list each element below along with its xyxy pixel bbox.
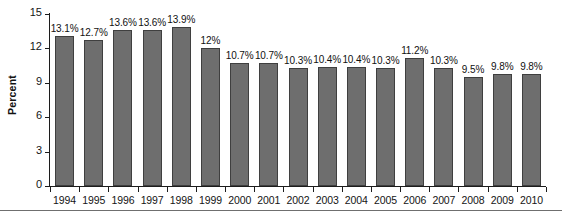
- y-axis-tick-mark: [45, 152, 50, 153]
- bar: [464, 77, 483, 186]
- x-axis-label: 1994: [49, 194, 81, 206]
- bar: [376, 68, 395, 186]
- x-axis-label: 2003: [311, 194, 343, 206]
- bar: [318, 67, 337, 186]
- x-axis-tick-mark: [546, 187, 547, 192]
- bar: [84, 40, 103, 186]
- x-axis-tick-mark: [400, 187, 401, 192]
- bar: [143, 30, 162, 186]
- x-axis-tick-mark: [138, 187, 139, 192]
- bar: [172, 27, 191, 186]
- y-axis-tick-mark: [45, 83, 50, 84]
- x-axis-label: 2010: [515, 194, 547, 206]
- x-axis-tick-mark: [371, 187, 372, 192]
- footer-divider: [0, 210, 562, 211]
- x-axis-label: 2002: [282, 194, 314, 206]
- y-axis-title: Percent: [2, 0, 22, 190]
- x-axis-label: 2009: [486, 194, 518, 206]
- x-axis-label: 1997: [136, 194, 168, 206]
- x-axis-tick-mark: [196, 187, 197, 192]
- bar: [55, 36, 74, 186]
- y-axis-tick: 15: [0, 14, 50, 15]
- x-axis-tick-mark: [488, 187, 489, 192]
- x-axis-tick-mark: [517, 187, 518, 192]
- bar: [405, 58, 424, 186]
- x-axis-label: 2006: [399, 194, 431, 206]
- x-axis-label: 1995: [78, 194, 110, 206]
- bar-value-label: 12.7%: [77, 27, 111, 38]
- x-axis-tick-mark: [108, 187, 109, 192]
- y-axis-tick: 6: [0, 117, 50, 118]
- y-axis-tick-label: 9: [36, 75, 42, 87]
- x-axis-label: 1996: [107, 194, 139, 206]
- x-axis-tick-mark: [429, 187, 430, 192]
- y-axis-tick-label: 12: [30, 40, 42, 52]
- bar: [201, 48, 220, 186]
- x-axis-label: 2005: [370, 194, 402, 206]
- x-axis-tick-mark: [50, 187, 51, 192]
- y-axis-tick: 9: [0, 83, 50, 84]
- x-axis-tick-mark: [225, 187, 226, 192]
- y-axis-tick-label: 15: [30, 6, 42, 18]
- y-axis-tick: 3: [0, 152, 50, 153]
- bar: [289, 68, 308, 186]
- bar: [434, 68, 453, 186]
- x-axis-tick-mark: [254, 187, 255, 192]
- x-axis-tick-mark: [458, 187, 459, 192]
- bar: [522, 74, 541, 186]
- y-axis-tick-mark: [45, 48, 50, 49]
- bar-chart: Percent 03691215 13.1%12.7%13.6%13.6%13.…: [0, 0, 562, 217]
- x-axis-tick-mark: [79, 187, 80, 192]
- y-axis-tick-label: 0: [36, 178, 42, 190]
- y-axis-tick: 0: [0, 186, 50, 187]
- x-axis-label: 2000: [224, 194, 256, 206]
- x-axis-tick-mark: [167, 187, 168, 192]
- y-axis-line: [49, 13, 50, 187]
- y-axis-tick-label: 3: [36, 144, 42, 156]
- x-axis-label: 1998: [165, 194, 197, 206]
- x-axis-tick-mark: [283, 187, 284, 192]
- bar-value-label: 13.9%: [164, 14, 198, 25]
- y-axis-tick-mark: [45, 117, 50, 118]
- bar: [259, 63, 278, 186]
- x-axis-label: 2004: [340, 194, 372, 206]
- bar-value-label: 12%: [193, 35, 227, 46]
- bar: [230, 63, 249, 186]
- bar: [113, 30, 132, 186]
- x-axis-tick-mark: [342, 187, 343, 192]
- y-axis-tick-mark: [45, 14, 50, 15]
- x-axis-tick-mark: [313, 187, 314, 192]
- x-axis-label: 2007: [428, 194, 460, 206]
- y-axis-tick: 12: [0, 48, 50, 49]
- x-axis-label: 1999: [194, 194, 226, 206]
- bar: [493, 74, 512, 186]
- bar: [347, 67, 366, 186]
- x-axis-line: [49, 186, 546, 187]
- x-axis-label: 2001: [253, 194, 285, 206]
- y-axis-tick-label: 6: [36, 109, 42, 121]
- bar-value-label: 9.8%: [514, 61, 548, 72]
- bar-value-label: 10.3%: [369, 55, 403, 66]
- x-axis-label: 2008: [457, 194, 489, 206]
- y-axis-title-label: Percent: [6, 75, 18, 115]
